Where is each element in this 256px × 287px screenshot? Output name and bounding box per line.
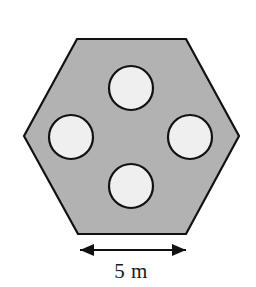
hole-top-circle [109,66,153,110]
hexagon-fill [0,0,256,287]
hexagon-figure: 5 m [0,0,256,287]
figure-container: 5 m [0,0,256,287]
dimension-label: 5 m [114,259,148,283]
hole-right-circle [168,115,212,159]
hole-left-circle [49,115,93,159]
hexagon-plate [0,0,256,287]
hole-bottom-circle [109,164,153,208]
